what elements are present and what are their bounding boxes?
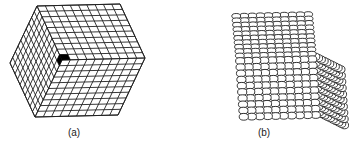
panel-b-sphere-cube: [232, 12, 349, 129]
panel-a-label: (a): [68, 127, 80, 138]
panel-a-grid-cube: [10, 4, 145, 117]
panel-b-label: (b): [258, 127, 270, 138]
figure-canvas: [0, 0, 349, 145]
